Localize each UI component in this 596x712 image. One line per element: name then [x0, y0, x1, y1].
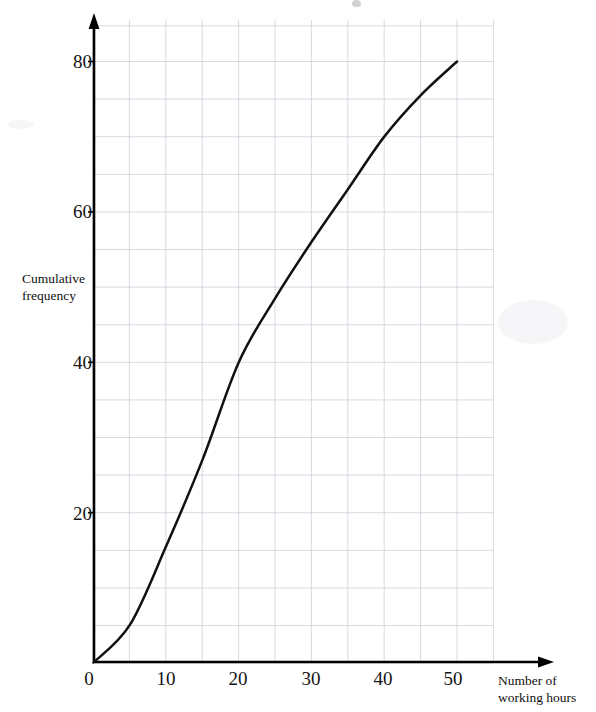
x-axis-title-line-1: Number of: [498, 672, 594, 689]
cumulative-frequency-chart: 80 60 40 20 0 10 20 30 40 50 Cumulative …: [0, 0, 596, 712]
y-axis-title: Cumulative frequency: [22, 270, 112, 304]
y-tick-label-20: 20: [52, 503, 92, 525]
y-tick-label-40: 40: [52, 352, 92, 374]
x-axis-title-line-2: working hours: [498, 689, 594, 706]
y-tick-label-80: 80: [52, 51, 92, 73]
x-tick-label-40: 40: [362, 668, 404, 690]
x-tick-label-10: 10: [145, 668, 187, 690]
scan-artifact-top: [352, 0, 361, 7]
y-axis-title-line-2: frequency: [22, 287, 112, 304]
y-axis-title-line-1: Cumulative: [22, 270, 112, 287]
x-tick-label-20: 20: [217, 668, 259, 690]
x-tick-label-50: 50: [432, 668, 474, 690]
scan-artifact-right: [498, 300, 568, 344]
x-axis-title: Number of working hours: [498, 672, 594, 706]
scan-artifact-left: [8, 120, 34, 129]
y-tick-label-60: 60: [52, 201, 92, 223]
x-tick-label-0: 0: [74, 668, 104, 690]
x-tick-label-30: 30: [290, 668, 332, 690]
